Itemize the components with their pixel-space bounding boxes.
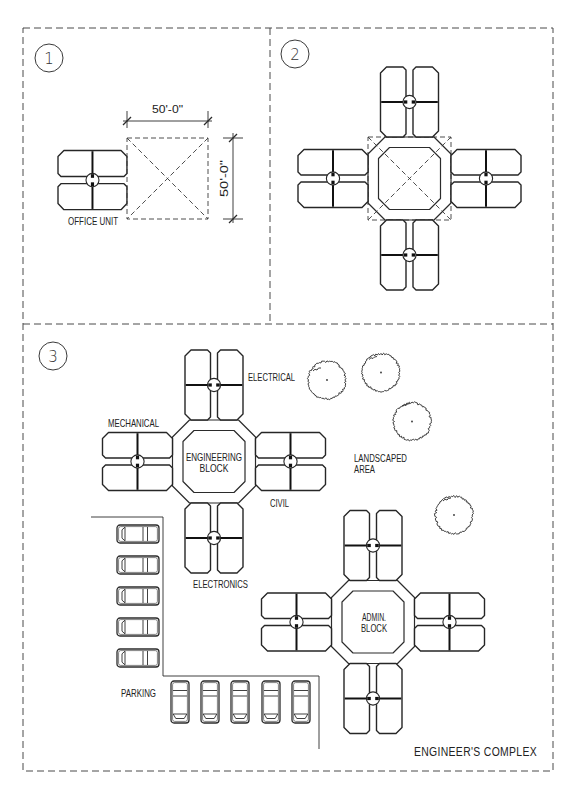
dimension-width: 50'-0" — [123, 103, 212, 128]
parked-car — [171, 681, 189, 723]
office-unit-right — [415, 593, 485, 651]
electronics-wing — [185, 503, 243, 573]
parked-car — [117, 556, 159, 574]
office-unit-left — [262, 593, 332, 651]
panel-2: 2 — [281, 40, 521, 290]
outer-border — [23, 28, 553, 771]
site-plan-drawing: 1 OFFICE UNIT 50'-0" 50'-0" — [0, 0, 577, 800]
electrical-wing — [185, 350, 243, 420]
landscaping — [307, 353, 473, 534]
office-unit — [58, 151, 127, 210]
panel-number: 1 — [44, 50, 54, 68]
civil-wing — [256, 433, 326, 491]
panel-number: 3 — [48, 348, 58, 366]
landscaped-area-label-line2: AREA — [354, 463, 375, 475]
sheet-borders — [23, 28, 553, 771]
tree-trunk-dot — [411, 421, 413, 423]
drawing-title: ENGINEER'S COMPLEX — [414, 745, 537, 759]
parked-car — [262, 681, 280, 723]
panel-number-badge: 2 — [281, 40, 309, 68]
office-unit-top — [344, 511, 402, 581]
parked-car — [231, 681, 249, 723]
electronics-label: ELECTRONICS — [193, 578, 248, 590]
dimension-width-text: 50'-0" — [152, 103, 183, 115]
panel-1: 1 OFFICE UNIT 50'-0" 50'-0" — [35, 44, 243, 227]
parking-left-column — [117, 525, 159, 667]
parked-car — [117, 587, 159, 605]
tree-trunk-dot — [380, 372, 382, 374]
parked-car — [292, 681, 310, 723]
parking-label: PARKING — [121, 687, 156, 699]
tree-4 — [434, 496, 473, 535]
tree-2 — [361, 353, 400, 392]
tree-3 — [392, 402, 431, 441]
panel-3: 3 ENGINEERING BLOCK ELECTRICAL MECHANICA… — [39, 342, 537, 759]
module-square — [127, 138, 208, 219]
mechanical-label: MECHANICAL — [108, 417, 159, 429]
tree-trunk-dot — [453, 514, 455, 516]
office-unit-right — [451, 150, 521, 208]
panel-number-badge: 3 — [39, 342, 67, 370]
mechanical-wing — [103, 433, 173, 491]
office-unit-top — [381, 67, 439, 137]
parked-car — [117, 649, 159, 667]
electrical-label: ELECTRICAL — [248, 371, 295, 383]
admin-block-label-line2: BLOCK — [361, 622, 387, 634]
tree-1 — [307, 361, 346, 400]
panel-number: 2 — [290, 46, 300, 64]
cluster-assembly — [298, 67, 521, 290]
office-unit-bottom — [381, 220, 439, 290]
parking-bottom-row — [171, 681, 310, 723]
tree-texture — [313, 368, 321, 371]
parked-car — [117, 618, 159, 636]
engineering-block-label-line2: BLOCK — [200, 462, 229, 474]
office-unit-left — [298, 150, 368, 208]
dimension-height-text: 50'-0" — [218, 160, 230, 197]
dimension-height: 50'-0" — [218, 133, 244, 223]
office-unit-bottom — [344, 664, 402, 734]
parked-car — [117, 525, 159, 543]
civil-label: CIVIL — [270, 497, 289, 509]
office-unit-label: OFFICE UNIT — [68, 215, 118, 227]
tree-trunk-dot — [326, 379, 328, 381]
panel-number-badge: 1 — [35, 44, 63, 72]
parked-car — [201, 681, 219, 723]
